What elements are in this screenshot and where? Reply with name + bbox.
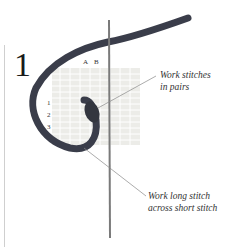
callout-pairs: Work stitches in pairs (160, 69, 211, 93)
callout-line: across short stitch (148, 202, 217, 214)
callout-line: Work stitches (160, 69, 211, 81)
column-label-b: B (94, 58, 99, 66)
callout-long-stitch: Work long stitch across short stitch (148, 190, 217, 214)
row-label-1: 1 (47, 99, 51, 107)
row-label-2: 2 (47, 111, 51, 119)
column-label-a: A (83, 58, 88, 66)
callout-line: in pairs (160, 81, 211, 93)
row-label-3: 3 (47, 123, 51, 131)
step-number: 1 (14, 48, 31, 82)
callout-line: Work long stitch (148, 190, 217, 202)
needle (109, 20, 110, 238)
